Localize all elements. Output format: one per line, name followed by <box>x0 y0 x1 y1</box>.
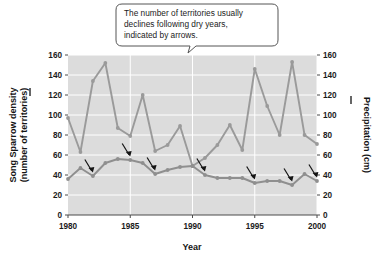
data-point <box>303 133 307 137</box>
chart-svg: 020406080100120140160 020406080100120140… <box>0 0 377 265</box>
y-left-tick-label-120: 120 <box>48 91 62 100</box>
data-point <box>315 179 319 183</box>
y-right-tick-label-40: 40 <box>323 171 333 180</box>
x-tick-label-2000: 2000 <box>308 222 327 231</box>
data-point <box>203 173 207 177</box>
data-point <box>265 104 269 108</box>
data-point <box>191 164 195 168</box>
y-left-tick-label-100: 100 <box>48 111 62 120</box>
data-point <box>153 149 157 153</box>
x-axis-title: Year <box>182 242 202 252</box>
data-point <box>290 183 294 187</box>
y-left-tick-label-80: 80 <box>53 131 63 140</box>
data-point <box>315 142 319 146</box>
y-right-tick-label-80: 80 <box>323 131 333 140</box>
data-point <box>303 172 307 176</box>
y-axis-left-tick-labels: 020406080100120140160 <box>48 51 62 220</box>
y-right-tick-label-100: 100 <box>323 111 337 120</box>
data-point <box>116 157 120 161</box>
y-right-tick-label-0: 0 <box>323 211 328 220</box>
data-point <box>240 176 244 180</box>
data-point <box>278 133 282 137</box>
data-point <box>216 143 220 147</box>
y-axis-left-title-line2: (number of territories) <box>19 88 29 183</box>
data-point <box>278 179 282 183</box>
x-tick-label-1995: 1995 <box>246 222 265 231</box>
data-point <box>290 60 294 64</box>
data-point <box>153 172 157 176</box>
data-point <box>228 176 232 180</box>
data-point <box>178 165 182 169</box>
data-point <box>228 123 232 127</box>
callout-line-2: declines following dry years, <box>124 19 228 29</box>
data-point <box>166 143 170 147</box>
data-point <box>103 61 107 65</box>
data-point <box>203 156 207 160</box>
y-right-tick-label-160: 160 <box>323 51 337 60</box>
x-tick-label-1985: 1985 <box>121 222 140 231</box>
y-right-tick-label-20: 20 <box>323 191 333 200</box>
data-point <box>240 148 244 152</box>
data-point <box>141 161 145 165</box>
y-left-tick-label-140: 140 <box>48 71 62 80</box>
y-left-tick-label-160: 160 <box>48 51 62 60</box>
data-point <box>66 116 70 120</box>
callout-bubble: The number of territories usually declin… <box>116 4 278 53</box>
y-axis-right-title: Precipitation (cm) <box>362 97 372 173</box>
figure-container: 020406080100120140160 020406080100120140… <box>0 0 377 265</box>
x-tick-label-1990: 1990 <box>183 222 202 231</box>
data-point <box>166 168 170 172</box>
data-point <box>79 166 83 170</box>
data-point <box>103 161 107 165</box>
data-point <box>91 174 95 178</box>
y-right-tick-label-140: 140 <box>323 71 337 80</box>
data-point <box>128 158 132 162</box>
y-left-tick-label-0: 0 <box>57 211 62 220</box>
data-point <box>91 79 95 83</box>
y-right-tick-label-60: 60 <box>323 151 333 160</box>
data-point <box>128 134 132 138</box>
x-tick-label-1980: 1980 <box>59 222 78 231</box>
y-axis-left-title-line1: Song Sparrow density <box>8 87 18 182</box>
data-point <box>79 150 83 154</box>
y-left-tick-label-20: 20 <box>53 191 63 200</box>
data-point <box>116 126 120 130</box>
data-point <box>216 176 220 180</box>
data-point <box>265 179 269 183</box>
data-point <box>141 93 145 97</box>
callout-line-1: The number of territories usually <box>124 8 244 18</box>
data-point <box>253 181 257 185</box>
data-point <box>253 67 257 71</box>
y-axis-right-tick-labels: 020406080100120140160 <box>323 51 337 220</box>
callout-line-3: indicated by arrows. <box>124 30 198 40</box>
y-left-tick-label-40: 40 <box>53 171 63 180</box>
y-left-tick-label-60: 60 <box>53 151 63 160</box>
y-right-tick-label-120: 120 <box>323 91 337 100</box>
data-point <box>66 177 70 181</box>
data-point <box>178 124 182 128</box>
x-axis-tick-labels: 19801985199019952000 <box>59 222 327 231</box>
